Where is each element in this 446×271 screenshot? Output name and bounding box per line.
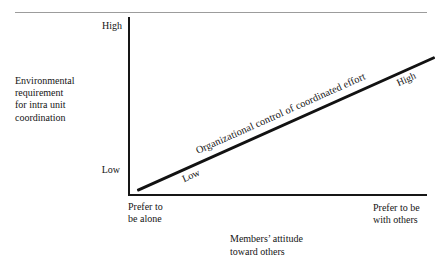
- y-axis-title-line: Environmental: [15, 75, 74, 87]
- y-axis-title: Environmental requirement for intra unit…: [15, 75, 74, 124]
- x-axis-tick-right-line: with others: [373, 214, 420, 226]
- x-axis-title: Members’ attitude toward others: [230, 233, 303, 259]
- trend-line-label: Organizational control of coordinated ef…: [194, 70, 367, 155]
- y-axis-tick-low: Low: [58, 164, 120, 175]
- x-axis-tick-right: Prefer to be with others: [373, 202, 420, 225]
- x-axis-tick-right-line: Prefer to be: [373, 202, 420, 214]
- y-axis-title-line: requirement: [15, 87, 74, 99]
- x-axis-title-line: Members’ attitude: [230, 233, 303, 246]
- y-axis-title-line: coordination: [15, 112, 74, 124]
- trend-line: [136, 56, 435, 192]
- y-axis-title-line: for intra unit: [15, 99, 74, 111]
- y-axis-tick-high: High: [60, 20, 122, 31]
- x-axis-line: [128, 194, 427, 196]
- x-axis-tick-left-line: Prefer to: [128, 201, 163, 213]
- x-axis-tick-left-line: be alone: [128, 213, 163, 225]
- y-axis-line: [128, 17, 130, 195]
- x-axis-tick-left: Prefer to be alone: [128, 201, 163, 224]
- trend-line-group: Organizational control of coordinated ef…: [137, 57, 435, 190]
- coordination-chart-figure: Environmental requirement for intra unit…: [0, 0, 446, 271]
- top-horizontal-rule: [15, 12, 427, 13]
- x-axis-title-line: toward others: [230, 246, 303, 259]
